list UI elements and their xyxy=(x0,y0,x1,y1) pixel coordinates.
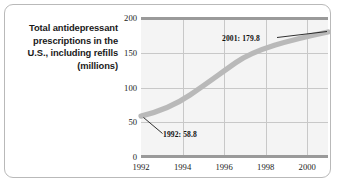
axis-line-bottom xyxy=(141,155,328,158)
ytick-label-200: 200 xyxy=(105,13,137,23)
xtick-label-1994: 1994 xyxy=(163,162,203,172)
gridline-y-100 xyxy=(141,88,328,89)
ytick-label-0: 0 xyxy=(105,152,137,162)
gridline-y-50 xyxy=(141,122,328,123)
axis-line-top xyxy=(141,17,328,20)
xtick-label-1996: 1996 xyxy=(204,162,244,172)
gridline-x-2000 xyxy=(307,18,308,157)
chart-figure: Total antidepressant prescriptions in th… xyxy=(0,0,337,192)
plot-wrapper: 200 150 100 50 0 1992 1994 1996 1998 200… xyxy=(0,0,337,192)
ytick-label-50: 50 xyxy=(105,117,137,127)
ytick-label-150: 150 xyxy=(105,48,137,58)
annotation-2001: 2001: 179.8 xyxy=(222,34,260,43)
ytick-label-100: 100 xyxy=(105,83,137,93)
xtick-label-1998: 1998 xyxy=(246,162,286,172)
gridline-y-150 xyxy=(141,53,328,54)
xtick-label-1992: 1992 xyxy=(121,162,161,172)
annotation-1992: 1992: 58.8 xyxy=(163,130,197,139)
xtick-label-2000: 2000 xyxy=(287,162,327,172)
gridline-x-1998 xyxy=(266,18,267,157)
